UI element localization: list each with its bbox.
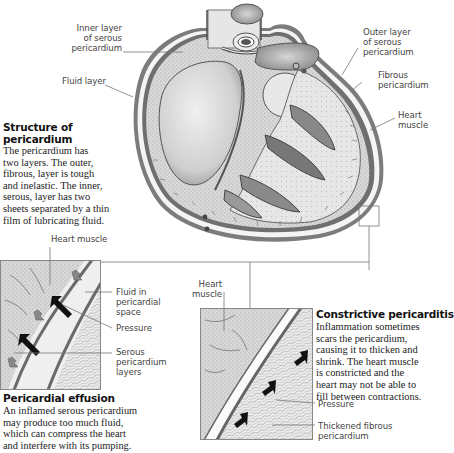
effusion-title: Pericardial effusion <box>3 392 115 404</box>
label-heart-muscle-main: Heart muscle <box>398 110 428 130</box>
label-fluid-layer: Fluid layer <box>62 76 106 86</box>
label-effusion-heart-muscle: Heart muscle <box>51 234 107 244</box>
label-constrictive-pressure: Pressure <box>318 399 354 409</box>
effusion-text: An inflamed serous pericardium may produ… <box>3 405 137 451</box>
constrictive-text: Inflammation sometimes scars the pericar… <box>316 321 421 402</box>
label-serous-pericardium-layers: Serous pericardium layers <box>116 347 167 378</box>
label-fluid-in-pericardial-space: Fluid in pericardial space <box>116 287 160 318</box>
label-constrictive-heart-muscle: Heart muscle <box>180 279 222 299</box>
structure-title: Structure of pericardium <box>3 121 72 145</box>
label-effusion-pressure: Pressure <box>116 323 152 333</box>
heart-cross-section <box>134 4 384 242</box>
structure-text: The pericardium has two layers. The oute… <box>3 145 109 226</box>
effusion-detail <box>0 260 118 390</box>
label-outer-layer: Outer layer of serous pericardium <box>363 27 414 58</box>
label-fibrous-pericardium: Fibrous pericardium <box>378 70 429 90</box>
label-thickened-fibrous-pericardium: Thickened fibrous pericardium <box>318 421 392 441</box>
constrictive-detail <box>200 308 313 440</box>
constrictive-title: Constrictive pericarditis <box>316 308 454 320</box>
label-inner-layer: Inner layer of serous pericardium <box>60 23 122 54</box>
